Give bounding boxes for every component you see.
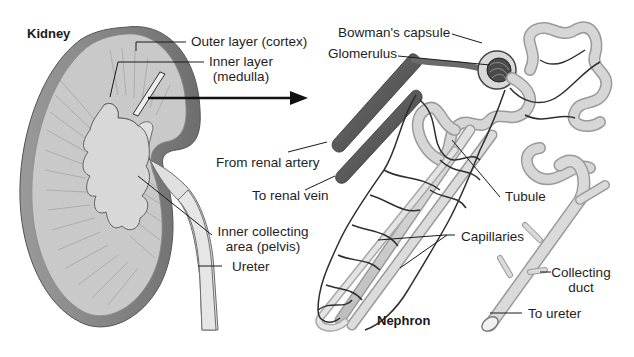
afferent-arteriole — [414, 60, 478, 68]
label-outer-layer-cortex: Outer layer (cortex) — [191, 34, 307, 49]
label-tubule: Tubule — [505, 189, 546, 204]
label-collecting-duct-line1: Collecting — [551, 265, 611, 280]
ureter — [178, 190, 216, 330]
label-inner-layer-line1: Inner layer — [208, 54, 274, 69]
label-pelvis-line2: area (pelvis) — [215, 239, 311, 254]
label-glomerulus: Glomerulus — [328, 46, 397, 61]
label-inner-layer-medulla: Inner layer (medulla) — [208, 54, 274, 84]
kidney-title: Kidney — [27, 26, 70, 41]
label-inner-layer-line2: (medulla) — [208, 69, 274, 84]
label-bowmans-capsule: Bowman's capsule — [338, 25, 450, 40]
label-inner-collecting-area: Inner collecting area (pelvis) — [215, 224, 311, 254]
label-ureter: Ureter — [232, 259, 270, 274]
label-collecting-duct: Collecting duct — [551, 265, 611, 295]
label-to-ureter: To ureter — [528, 306, 581, 321]
label-capillaries: Capillaries — [461, 229, 524, 244]
label-pelvis-line1: Inner collecting — [215, 224, 311, 239]
nephron-title: Nephron — [377, 313, 430, 328]
label-to-renal-vein: To renal vein — [252, 188, 329, 203]
label-from-renal-artery: From renal artery — [216, 155, 320, 170]
kidney-illustration — [20, 27, 218, 330]
label-collecting-duct-line2: duct — [551, 280, 611, 295]
kidney-nephron-diagram — [0, 0, 634, 357]
